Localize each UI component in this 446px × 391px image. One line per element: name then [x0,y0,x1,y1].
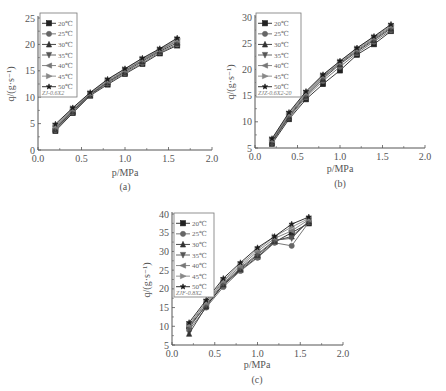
x-tick-label: 0.5 [209,348,222,359]
y-tick-label: 15 [25,65,35,76]
legend-label: 25℃ [192,230,207,238]
x-tick-label: 2.0 [419,151,432,162]
panel-caption: (c) [251,374,262,386]
legend-label: 25℃ [274,30,289,38]
y-tick-label: 25 [242,38,252,49]
y-tick-label: 30 [159,246,169,257]
y-tick-label: 25 [159,265,169,276]
y-tick-label: 20 [25,39,35,50]
panel-caption: (b) [334,178,346,190]
circle-legend-icon [180,231,185,236]
x-tick-label: 2.0 [337,348,350,359]
chart-panel-c: 0.00.51.01.52.0510152025303540q/(g·s⁻¹)p… [141,209,349,387]
legend: 20℃25℃30℃35℃40℃45℃50℃ZJZ-0.6X2-20 [256,13,301,97]
x-tick-label: 1.5 [162,153,175,164]
y-tick-label: 10 [242,116,252,127]
y-tick-label: 25 [25,13,35,24]
x-tick-label: 0.5 [291,151,304,162]
square-legend-icon [46,21,51,26]
legend-label: 30℃ [58,41,73,49]
y-tick-label: 40 [159,209,169,220]
y-tick-label: 15 [242,90,252,101]
legend-label: 25℃ [58,30,73,38]
y-tick-label: 5 [30,118,35,129]
x-tick-label: 2.0 [206,153,219,164]
x-tick-label: 1.5 [294,348,307,359]
y-tick-label: 15 [159,302,169,313]
legend-label: 35℃ [192,252,207,260]
circle-marker-icon [289,243,294,248]
legend-label: 30℃ [274,41,289,49]
legend-label: 40℃ [192,262,207,270]
x-axis-label: p/MPa [244,359,271,370]
panel-caption: (a) [119,181,130,193]
y-tick-label: 0 [30,145,35,156]
legend-label: 45℃ [274,73,289,81]
legend-label: 40℃ [58,62,73,70]
legend: 20℃25℃30℃35℃40℃45℃50℃ZJ-0.6X2 [40,13,77,97]
y-tick-label: 5 [247,143,252,154]
legend-model-label: ZJ-0.6X2 [42,90,64,96]
legend-label: 20℃ [274,20,289,28]
x-tick-label: 1.0 [334,151,347,162]
legend: 20℃25℃30℃35℃40℃45℃50℃ZJF-0.8X2 [174,213,214,297]
y-axis-label: q/(g·s⁻¹) [5,67,17,102]
legend-label: 20℃ [192,220,207,228]
y-axis-label: q/(g·s⁻¹) [225,65,237,100]
chart-panel-b: 0.00.51.01.52.051015202530q/(g·s⁻¹)p/MPa… [225,12,431,191]
square-legend-icon [262,21,267,26]
y-tick-label: 20 [242,64,252,75]
circle-legend-icon [46,31,51,36]
chart-panel-a: 0.00.51.01.52.00510152025q/(g·s⁻¹)p/MPa(… [5,13,218,194]
y-tick-label: 20 [159,283,169,294]
legend-label: 30℃ [192,241,207,249]
y-tick-label: 30 [242,12,252,23]
x-tick-label: 1.0 [119,153,132,164]
circle-legend-icon [262,31,267,36]
legend-label: 20℃ [58,20,73,28]
x-tick-label: 1.0 [251,348,264,359]
legend-label: 40℃ [274,62,289,70]
legend-model-label: ZJF-0.8X2 [176,290,202,296]
legend-model-label: ZJZ-0.6X2-20 [258,90,292,96]
x-tick-label: 1.5 [376,151,389,162]
legend-label: 45℃ [192,273,207,281]
legend-label: 45℃ [58,73,73,81]
legend-label: 35℃ [58,52,73,60]
y-tick-label: 10 [25,92,35,103]
square-legend-icon [180,221,185,226]
x-axis-label: p/MPa [327,163,354,174]
x-tick-label: 0.5 [75,153,88,164]
y-tick-label: 10 [159,321,169,332]
y-tick-label: 35 [159,227,169,238]
figure-canvas: 0.00.51.01.52.00510152025q/(g·s⁻¹)p/MPa(… [0,0,446,391]
legend-label: 35℃ [274,52,289,60]
y-axis-label: q/(g·s⁻¹) [141,263,153,298]
y-tick-label: 5 [164,340,169,351]
x-axis-label: p/MPa [112,167,139,178]
